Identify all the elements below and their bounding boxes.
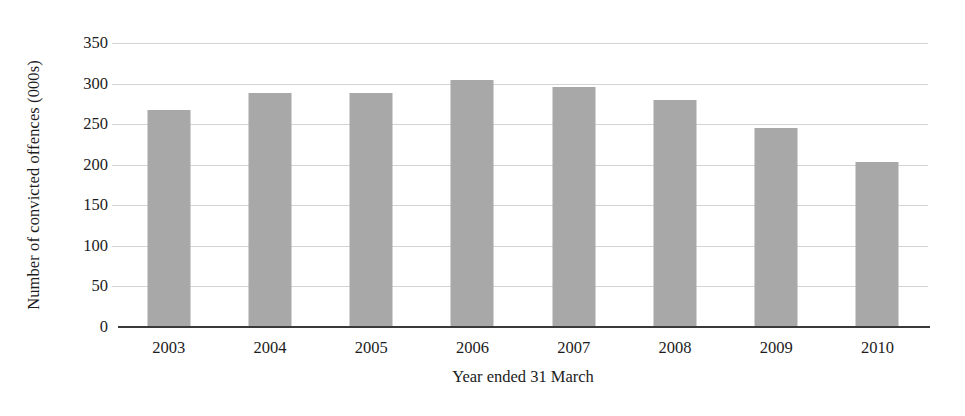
x-axis-tick-label-2010: 2010: [827, 336, 928, 360]
y-axis-tick-label: 150: [48, 197, 108, 214]
bar-2010[interactable]: [856, 162, 899, 327]
bar-chart-figure: Number of convicted offences (000s) 0501…: [0, 0, 965, 416]
bar-2005[interactable]: [350, 93, 393, 327]
y-axis-tick-label: 0: [48, 319, 108, 336]
bar-slot: [118, 43, 219, 327]
bar-slot: [827, 43, 928, 327]
y-axis-tick-labels: 050100150200250300350: [40, 43, 108, 327]
bar-2004[interactable]: [248, 93, 291, 327]
bar-slot: [624, 43, 725, 327]
y-axis-tick-label: 350: [48, 35, 108, 52]
x-axis-tick-label-2009: 2009: [726, 336, 827, 360]
x-axis-tick-label-2004: 2004: [219, 336, 320, 360]
plot-area: [118, 43, 928, 327]
x-axis-tick-labels: 20032004200520062007200820092010: [118, 336, 928, 360]
x-axis-tick-label-2005: 2005: [321, 336, 422, 360]
x-axis-tick-label-2006: 2006: [422, 336, 523, 360]
bar-slot: [726, 43, 827, 327]
bar-2007[interactable]: [552, 87, 595, 327]
bar-2009[interactable]: [755, 128, 798, 327]
bar-2008[interactable]: [653, 100, 696, 327]
bar-slot: [523, 43, 624, 327]
x-axis-tick-label-2003: 2003: [118, 336, 219, 360]
x-axis-title: Year ended 31 March: [118, 366, 928, 388]
x-axis-tick-label-2007: 2007: [523, 336, 624, 360]
y-axis-tick-label: 100: [48, 238, 108, 255]
bar-slot: [219, 43, 320, 327]
y-axis-tick-label: 300: [48, 76, 108, 93]
y-axis-tick-label: 200: [48, 157, 108, 174]
x-axis-line: [118, 326, 930, 328]
bar-slot: [422, 43, 523, 327]
bar-2006[interactable]: [451, 80, 494, 327]
y-axis-tick-label: 250: [48, 116, 108, 133]
y-axis-tick-label: 50: [48, 278, 108, 295]
x-axis-tick-label-2008: 2008: [624, 336, 725, 360]
bar-slot: [321, 43, 422, 327]
bar-2003[interactable]: [147, 110, 190, 327]
